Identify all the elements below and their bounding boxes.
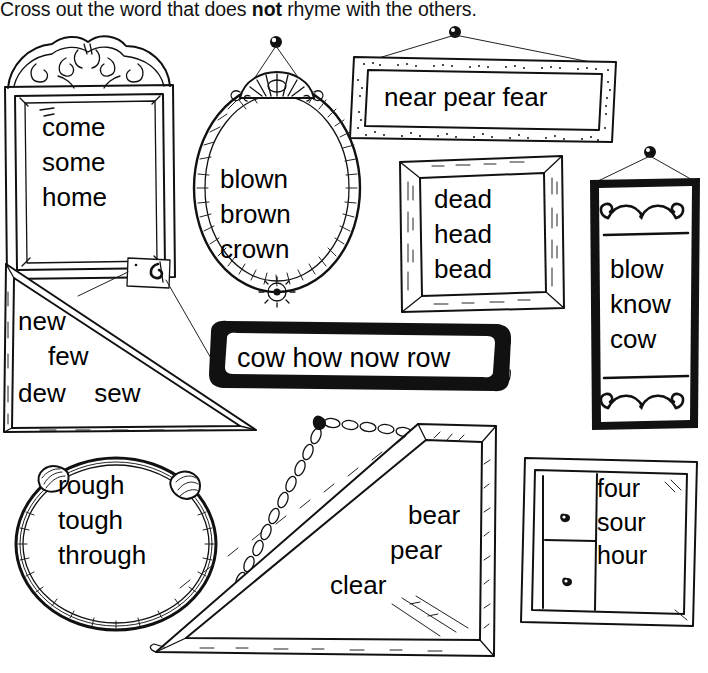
word-group-cow: cow how now row xyxy=(237,340,450,376)
word-group-bear: bear pear clear xyxy=(380,498,460,602)
word: head xyxy=(434,217,492,252)
word-group-rough: rough tough through xyxy=(58,468,146,572)
word: brown xyxy=(220,197,291,232)
word: know xyxy=(610,287,671,322)
word: hour xyxy=(597,539,647,573)
word: bear xyxy=(408,498,460,533)
word: some xyxy=(42,145,107,180)
instruction-emphasis: not xyxy=(252,0,282,20)
word: dew xyxy=(18,378,66,408)
word-group-dead: dead head bead xyxy=(434,182,492,286)
word: home xyxy=(42,180,107,215)
word: now xyxy=(350,343,400,373)
word: fear xyxy=(503,82,548,112)
instruction-prefix: Cross out the word that does xyxy=(0,0,252,20)
word: clear xyxy=(330,568,460,603)
word-group-blow: blow know cow xyxy=(610,252,671,356)
frame-plaque-blow-know-cow[interactable]: blow know cow xyxy=(578,140,708,440)
word: rough xyxy=(58,468,146,503)
word: dead xyxy=(434,182,492,217)
frame-wood-dead-head-bead[interactable]: dead head bead xyxy=(392,152,572,317)
word: bead xyxy=(434,252,492,287)
word: few xyxy=(48,339,140,374)
word-group-come: come some home xyxy=(42,110,107,214)
instruction-suffix: rhyme with the others. xyxy=(282,0,477,20)
worksheet-canvas: Cross out the word that does not rhyme w… xyxy=(0,0,708,673)
word: through xyxy=(58,538,146,573)
word: near xyxy=(384,82,436,112)
word: blow xyxy=(610,252,671,287)
word: sour xyxy=(597,506,647,540)
word: row xyxy=(407,343,451,373)
word: cow xyxy=(610,322,671,357)
frame-ornate-come-some-home[interactable]: come some home xyxy=(0,30,178,280)
word: tough xyxy=(58,503,146,538)
page-title: Cross out the word that does not rhyme w… xyxy=(0,0,708,21)
word-group-near: near pear fear xyxy=(384,80,547,115)
word: come xyxy=(42,110,107,145)
word: sew xyxy=(94,378,140,408)
frame-window-four-sour-hour[interactable]: four sour hour xyxy=(515,450,705,635)
word: pear xyxy=(443,82,495,112)
word-group-new: new few dew sew xyxy=(18,304,140,410)
word: pear xyxy=(390,533,460,568)
frame-triangle-bear-pear-clear[interactable]: bear pear clear xyxy=(140,408,505,666)
wall-hook-icon xyxy=(127,258,170,288)
word: new xyxy=(18,304,140,339)
word: how xyxy=(293,343,343,373)
frame-stippled-near-pear-fear[interactable]: near pear fear xyxy=(340,20,630,150)
word: four xyxy=(597,472,647,506)
frame-blackbar-cow-how-now-row[interactable]: cow how now row xyxy=(205,318,515,396)
word-group-four: four sour hour xyxy=(597,472,647,573)
oval-crest-ornament xyxy=(231,72,323,101)
word: blown xyxy=(220,162,291,197)
word: cow xyxy=(237,343,285,373)
word-group-blown: blown brown crown xyxy=(220,162,291,266)
